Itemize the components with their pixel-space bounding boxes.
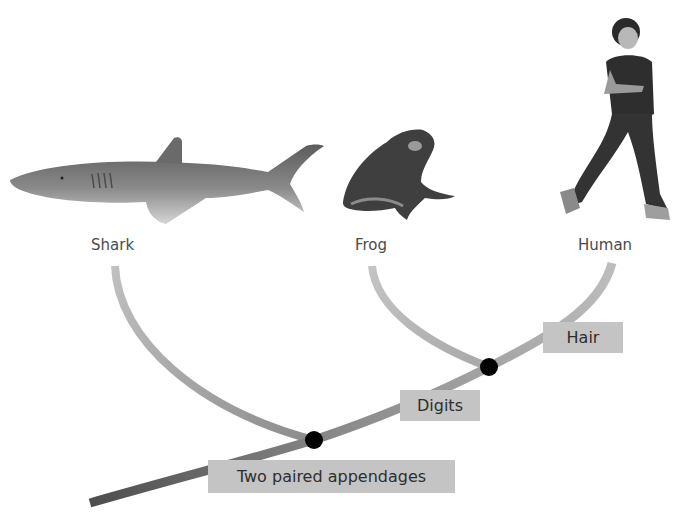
taxon-label-human: Human [578, 236, 632, 254]
cladogram-diagram: Shark Frog Human Two paired appendages D… [0, 0, 689, 512]
node-digits [480, 358, 498, 376]
shark-illustration-icon [6, 132, 328, 224]
node-appendages [305, 431, 323, 449]
trait-label-digits: Digits [400, 390, 480, 421]
branch-frog [372, 266, 489, 367]
trait-label-hair: Hair [543, 322, 623, 353]
trait-label-two-paired-appendages: Two paired appendages [208, 460, 455, 493]
human-runner-illustration-icon [556, 14, 676, 229]
taxon-label-frog: Frog [355, 236, 387, 254]
frog-illustration-icon [337, 120, 459, 226]
taxon-label-shark: Shark [91, 236, 134, 254]
branch-shark [115, 266, 314, 440]
